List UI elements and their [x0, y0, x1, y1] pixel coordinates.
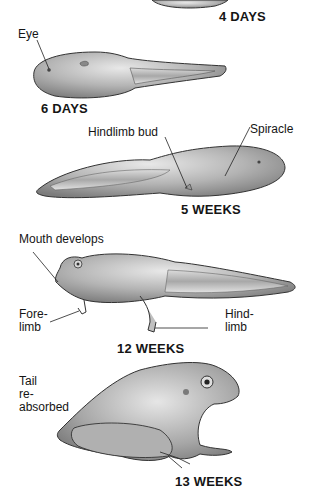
stage-label-4-days: 4 DAYS	[219, 9, 266, 24]
stage-label-6-days: 6 DAYS	[41, 101, 88, 116]
stage-label-5-weeks: 5 WEEKS	[181, 202, 241, 217]
annotation-mouth-develops: Mouth develops	[19, 233, 104, 246]
annotation-tail-reabsorbed: Tail re- absorbed	[19, 375, 69, 414]
annotation-spiracle: Spiracle	[250, 123, 293, 136]
annotation-forelimb: Fore- limb	[19, 308, 48, 334]
annotation-eye: Eye	[18, 28, 39, 41]
frog-13-weeks	[57, 363, 239, 468]
annotation-hindlimb: Hind- limb	[225, 308, 254, 334]
diagram-artwork	[0, 0, 317, 498]
froglet-12-weeks	[33, 252, 295, 332]
stage-label-12-weeks: 12 WEEKS	[117, 341, 184, 356]
tadpole-4-days	[152, 0, 228, 8]
tadpole-5-weeks	[37, 127, 285, 198]
annotation-hindlimb-bud: Hindlimb bud	[88, 126, 158, 139]
stage-label-13-weeks: 13 WEEKS	[175, 474, 242, 489]
tadpole-6-days	[34, 40, 226, 98]
frog-life-cycle-diagram: 4 DAYS 6 DAYS 5 WEEKS 12 WEEKS 13 WEEKS …	[0, 0, 317, 498]
